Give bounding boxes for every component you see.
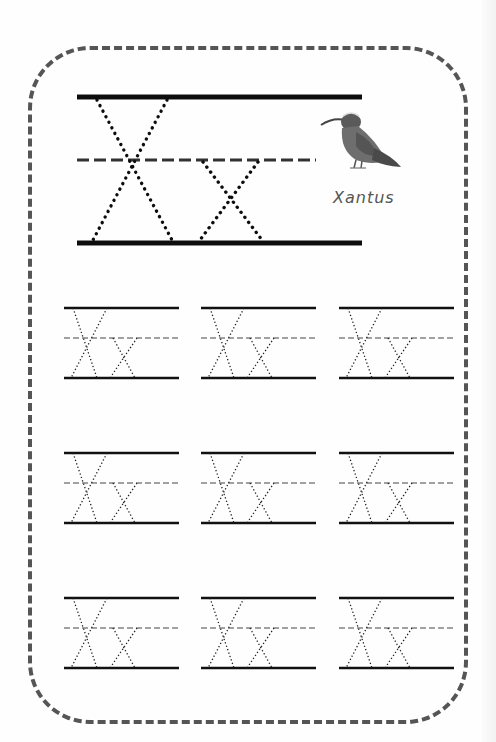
practice-grid bbox=[64, 308, 454, 668]
practice-cell[interactable] bbox=[64, 598, 179, 668]
practice-row-3 bbox=[64, 598, 454, 668]
practice-cell[interactable] bbox=[201, 453, 316, 523]
worksheet-page: Xantus bbox=[0, 0, 496, 742]
practice-cell[interactable] bbox=[339, 453, 454, 523]
practice-cell[interactable] bbox=[339, 308, 454, 378]
hummingbird-icon bbox=[321, 113, 401, 168]
practice-cell[interactable] bbox=[201, 308, 316, 378]
tracing-canvas bbox=[0, 0, 496, 742]
large-letter-example bbox=[77, 97, 362, 243]
example-word-caption: Xantus bbox=[333, 188, 395, 207]
practice-row-2 bbox=[64, 453, 454, 523]
practice-cell[interactable] bbox=[64, 308, 179, 378]
practice-cell[interactable] bbox=[64, 453, 179, 523]
practice-cell[interactable] bbox=[339, 598, 454, 668]
practice-row-1 bbox=[64, 308, 454, 378]
practice-cell[interactable] bbox=[201, 598, 316, 668]
